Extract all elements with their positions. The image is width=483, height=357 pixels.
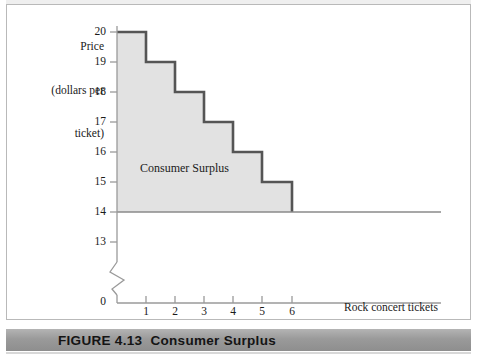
caption-underline <box>6 352 471 354</box>
chart-plot-area: Price (dollars per ticket) Rock concert … <box>0 0 483 322</box>
x-axis-ticks <box>146 296 292 303</box>
x-axis-title: Rock concert tickets <box>344 300 438 315</box>
y-tick-label-17: 17 <box>84 115 106 127</box>
y-axis-ticks <box>110 32 117 242</box>
y-tick-label-13: 13 <box>84 235 106 247</box>
axis-break-zigzag <box>110 262 124 295</box>
y-tick-label-15: 15 <box>84 175 106 187</box>
x-tick-label-2: 2 <box>167 305 183 317</box>
y-axis-title-line3: ticket) <box>14 126 104 141</box>
figure-caption-bar: FIGURE 4.13 Consumer Surplus <box>6 329 471 351</box>
y-tick-label-16: 16 <box>84 145 106 157</box>
y-tick-label-18: 18 <box>84 85 106 97</box>
x-tick-label-1: 1 <box>138 305 154 317</box>
figure-caption-text: FIGURE 4.13 Consumer Surplus <box>58 333 276 348</box>
y-tick-label-0: 0 <box>84 295 106 307</box>
y-tick-label-19: 19 <box>84 55 106 67</box>
figure-container: Price (dollars per ticket) Rock concert … <box>0 0 483 357</box>
x-tick-label-4: 4 <box>225 305 241 317</box>
y-tick-label-20: 20 <box>84 25 106 37</box>
x-tick-label-5: 5 <box>254 305 270 317</box>
x-tick-label-6: 6 <box>284 305 300 317</box>
y-tick-label-14: 14 <box>84 205 106 217</box>
consumer-surplus-annotation: Consumer Surplus <box>140 161 229 176</box>
y-axis-title-line1: Price <box>14 39 104 54</box>
x-tick-label-3: 3 <box>196 305 212 317</box>
